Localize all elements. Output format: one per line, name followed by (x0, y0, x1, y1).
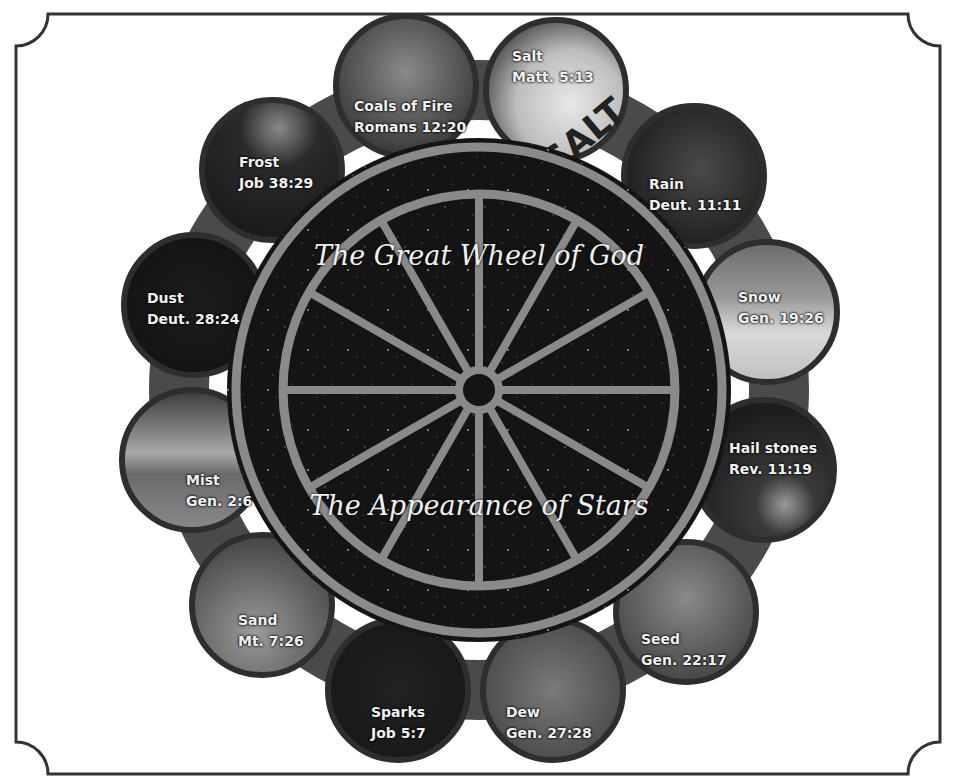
medallion-reference: Deut. 11:11 (649, 195, 742, 216)
medallion-hail-stones: Hail stones Rev. 11:19 (729, 438, 817, 480)
medallion-reference: Gen. 19:26 (738, 308, 824, 329)
medallion-sand: Sand Mt. 7:26 (238, 610, 304, 652)
medallion-name: Snow (738, 287, 824, 308)
medallion-name: Hail stones (729, 438, 817, 459)
medallion-name: Rain (649, 174, 742, 195)
medallion-rain: Rain Deut. 11:11 (649, 174, 742, 216)
medallion-reference: Matt. 5:13 (512, 67, 594, 88)
medallion-frost: Frost Job 38:29 (239, 152, 313, 194)
medallion-snow: Snow Gen. 19:26 (738, 287, 824, 329)
wheel-graphic: SALT (0, 0, 956, 783)
medallion-reference: Gen. 22:17 (641, 650, 727, 671)
medallion-name: Salt (512, 46, 594, 67)
wheel-title-top: The Great Wheel of God (314, 240, 644, 271)
great-wheel-diagram: SALT The Great Wheel of God The Appearan… (0, 0, 956, 783)
medallion-sparks: Sparks Job 5:7 (371, 702, 426, 744)
medallion-salt: Salt Matt. 5:13 (512, 46, 594, 88)
wheel-title-bottom: The Appearance of Stars (309, 490, 648, 521)
medallion-name: Coals of Fire (354, 96, 466, 117)
medallion-seed: Seed Gen. 22:17 (641, 629, 727, 671)
medallion-reference: Job 38:29 (239, 173, 313, 194)
medallion-name: Sparks (371, 702, 426, 723)
medallion-reference: Gen. 27:28 (506, 723, 592, 744)
medallion-reference: Deut. 28:24 (147, 309, 240, 330)
medallion-reference: Mt. 7:26 (238, 631, 304, 652)
medallion-name: Seed (641, 629, 727, 650)
medallion-mist: Mist Gen. 2:6 (186, 470, 252, 512)
medallion-dew: Dew Gen. 27:28 (506, 702, 592, 744)
medallion-name: Dust (147, 288, 240, 309)
medallion-reference: Gen. 2:6 (186, 491, 252, 512)
medallion-name: Frost (239, 152, 313, 173)
medallion-reference: Job 5:7 (371, 723, 426, 744)
medallion-reference: Rev. 11:19 (729, 459, 817, 480)
medallion-coals-of-fire: Coals of Fire Romans 12:20 (354, 96, 466, 138)
medallion-reference: Romans 12:20 (354, 117, 466, 138)
medallion-dust: Dust Deut. 28:24 (147, 288, 240, 330)
medallion-name: Mist (186, 470, 252, 491)
medallion-name: Sand (238, 610, 304, 631)
medallion-name: Dew (506, 702, 592, 723)
